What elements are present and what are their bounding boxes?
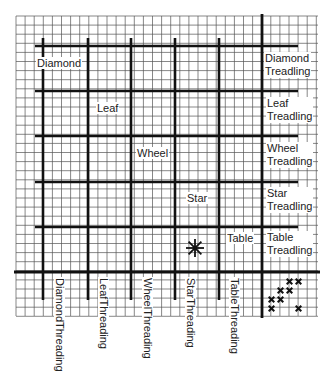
threading-label: LeafThreading [98, 277, 109, 350]
threading-label: WheelThreading [142, 277, 153, 360]
treadling-label-name: Wheel [267, 142, 312, 155]
tieup-x-mark-icon [296, 306, 302, 312]
block-label: Table [226, 232, 254, 244]
block-label: Star [186, 192, 208, 204]
tieup-x-mark-icon [269, 306, 275, 312]
threading-label-name: Star [185, 278, 197, 298]
threading-label-name: Diamond [54, 278, 66, 322]
treadling-label: LeafTreadling [266, 97, 313, 123]
treadling-label-word: Treadling [267, 110, 312, 123]
treadling-label-word: Treadling [267, 244, 312, 257]
threading-label: DiamondThreading [54, 277, 65, 373]
treadling-label-word: Treadling [265, 65, 310, 78]
treadling-label-name: Leaf [267, 97, 312, 110]
tieup-x-mark-icon [287, 279, 293, 285]
tieup-x-mark-icon [278, 297, 284, 303]
threading-label-word: Threading [229, 304, 241, 354]
threading-label-name: Wheel [142, 278, 154, 309]
treadling-label: TableTreadling [266, 231, 313, 257]
threading-label-word: Threading [98, 299, 110, 349]
threading-label: StarThreading [185, 277, 196, 349]
treadling-label-name: Table [267, 231, 312, 244]
treadling-label-name: Star [267, 187, 312, 200]
tieup-x-mark-icon [287, 288, 293, 294]
threading-label-word: Threading [54, 322, 66, 372]
treadling-label-name: Diamond [265, 52, 310, 65]
tieup-x-mark-icon [278, 288, 284, 294]
treadling-label: WheelTreadling [266, 142, 313, 168]
treadling-label: DiamondTreadling [264, 52, 311, 78]
threading-label: TableThreading [229, 277, 240, 355]
threading-label-word: Threading [142, 309, 154, 359]
block-label: Leaf [96, 102, 119, 114]
treadling-label-word: Treadling [267, 155, 312, 168]
treadling-label-word: Treadling [267, 200, 312, 213]
tieup-x-mark-icon [269, 297, 275, 303]
block-label: Wheel [136, 147, 169, 159]
threading-label-word: Threading [185, 298, 197, 348]
threading-label-name: Leaf [98, 278, 110, 299]
treadling-label: StarTreadling [266, 187, 313, 213]
threading-label-name: Table [229, 278, 241, 304]
block-label: Diamond [36, 57, 82, 69]
asterisk-marker-icon [186, 239, 204, 257]
tieup-x-mark-icon [296, 279, 302, 285]
